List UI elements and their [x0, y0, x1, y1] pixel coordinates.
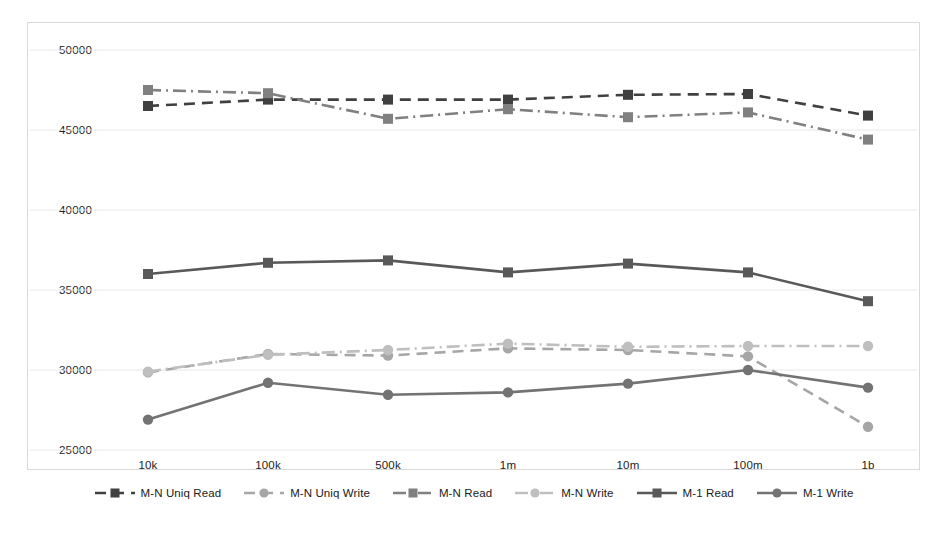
legend-label: M-N Read [439, 487, 492, 499]
x-axis-tick-100m: 100m [713, 459, 783, 471]
chart-legend: M-N Uniq ReadM-N Uniq WriteM-N ReadM-N W… [0, 487, 947, 499]
x-axis-tick-500k: 500k [353, 459, 423, 471]
legend-label: M-N Uniq Write [290, 487, 370, 499]
legend-item-m-n-uniq-read[interactable]: M-N Uniq Read [94, 487, 222, 499]
y-axis-tick-40000: 40000 [32, 204, 92, 216]
legend-item-m-1-read[interactable]: M-1 Read [636, 487, 734, 499]
legend-label: M-N Uniq Read [141, 487, 222, 499]
legend-item-m-n-uniq-write[interactable]: M-N Uniq Write [243, 487, 370, 499]
legend-swatch-icon [514, 487, 556, 499]
legend-swatch-icon [636, 487, 678, 499]
legend-label: M-N Write [561, 487, 613, 499]
x-axis-tick-10m: 10m [593, 459, 663, 471]
x-axis-tick-10k: 10k [113, 459, 183, 471]
x-axis-tick-100k: 100k [233, 459, 303, 471]
legend-swatch-icon [756, 487, 798, 499]
y-axis-tick-25000: 25000 [32, 444, 92, 456]
legend-item-m-n-write[interactable]: M-N Write [514, 487, 613, 499]
y-axis-tick-30000: 30000 [32, 364, 92, 376]
x-axis-tick-1m: 1m [473, 459, 543, 471]
legend-swatch-icon [243, 487, 285, 499]
legend-item-m-n-read[interactable]: M-N Read [392, 487, 492, 499]
legend-swatch-icon [392, 487, 434, 499]
legend-label: M-1 Read [683, 487, 734, 499]
legend-item-m-1-write[interactable]: M-1 Write [756, 487, 854, 499]
y-axis-tick-35000: 35000 [32, 284, 92, 296]
y-axis-tick-45000: 45000 [32, 124, 92, 136]
chart-container: 500004500040000350003000025000 10k100k50… [0, 0, 947, 548]
x-axis-tick-1b: 1b [833, 459, 903, 471]
plot-area [27, 22, 920, 470]
y-axis-tick-50000: 50000 [32, 44, 92, 56]
legend-label: M-1 Write [803, 487, 854, 499]
legend-swatch-icon [94, 487, 136, 499]
